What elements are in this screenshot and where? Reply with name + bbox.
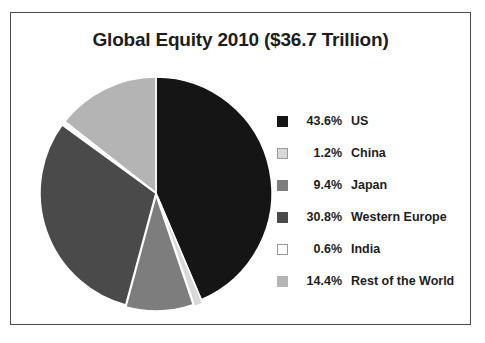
legend-item-percent: 0.6% [296,242,342,256]
legend-item-label: US [351,114,368,128]
legend-item-percent: 14.4% [296,274,342,288]
pie-slices [40,77,272,311]
legend-item-percent: 30.8% [296,210,342,224]
chart-legend: 43.6%US1.2%China9.4%Japan30.8%Western Eu… [277,105,467,297]
legend-item[interactable]: 9.4%Japan [277,169,467,201]
legend-item[interactable]: 0.6%India [277,233,467,265]
chart-page: Global Equity 2010 ($36.7 Trillion) 43.6… [0,0,485,343]
legend-item[interactable]: 30.8%Western Europe [277,201,467,233]
legend-swatch-western-europe [277,212,288,223]
legend-swatch-china [277,148,288,159]
legend-item-percent: 9.4% [296,178,342,192]
legend-item-percent: 43.6% [296,114,342,128]
legend-item[interactable]: 14.4%Rest of the World [277,265,467,297]
legend-item-label: Japan [351,178,387,192]
legend-item[interactable]: 1.2%China [277,137,467,169]
legend-item-label: China [351,146,386,160]
legend-swatch-us [277,116,288,127]
pie-chart-svg [35,75,283,315]
legend-swatch-india [277,244,288,255]
chart-frame: Global Equity 2010 ($36.7 Trillion) 43.6… [10,12,471,325]
legend-item-label: Rest of the World [351,274,454,288]
legend-item-label: Western Europe [351,210,447,224]
legend-swatch-rest-of-world [277,276,288,287]
legend-item[interactable]: 43.6%US [277,105,467,137]
legend-item-label: India [351,242,380,256]
legend-swatch-japan [277,180,288,191]
legend-item-percent: 1.2% [296,146,342,160]
pie-chart [35,75,283,315]
chart-title: Global Equity 2010 ($36.7 Trillion) [11,29,470,51]
